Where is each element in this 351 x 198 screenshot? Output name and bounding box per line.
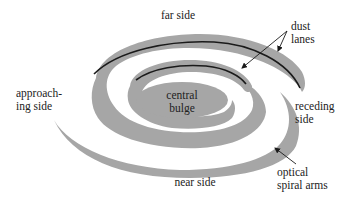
label-optical-arms-1: optical [277, 166, 308, 178]
label-near-side: near side [160, 176, 230, 188]
label-dust-lanes-1: dust [291, 20, 310, 32]
label-central-bulge-1: central [150, 89, 214, 101]
label-dust-lanes-2: lanes [291, 33, 315, 45]
label-central-bulge-2: bulge [150, 102, 214, 114]
label-receding-1: receding [295, 100, 335, 112]
label-approaching-1: approach- [16, 87, 62, 99]
label-approaching-2: ing side [16, 100, 52, 112]
label-optical-arms-2: spiral arms [277, 179, 328, 191]
label-receding-2: side [295, 113, 314, 125]
label-far-side: far side [148, 9, 208, 21]
dust-lanes-leader-outer [278, 31, 287, 51]
